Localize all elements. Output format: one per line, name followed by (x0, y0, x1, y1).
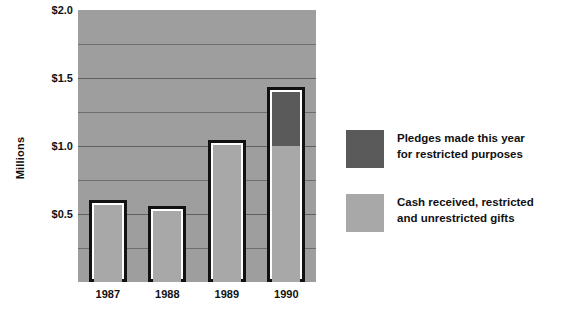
legend-label-line2: and unrestricted gifts (397, 211, 534, 227)
x-tick-label-1989: 1989 (215, 288, 239, 300)
bar-1989 (208, 140, 246, 282)
x-tick-label-1990: 1990 (274, 288, 298, 300)
legend-swatch-cash (346, 194, 384, 232)
gridline (78, 44, 316, 45)
y-tick-label: $1.0 (6, 140, 78, 152)
legend-item: Pledges made this yearfor restricted pur… (346, 130, 562, 168)
legend-label-line2: for restricted purposes (397, 147, 525, 163)
bar-segment-cash (94, 205, 122, 283)
x-tick-label-1988: 1988 (155, 288, 179, 300)
bar-segment-cash (153, 211, 181, 282)
gridline (78, 78, 316, 79)
y-tick-label: $2.0 (6, 4, 78, 16)
plot-area (78, 10, 316, 282)
bar-segment-cash (272, 146, 300, 282)
y-axis-ticks: $2.0$1.5$1.0$0.5 (0, 0, 78, 316)
x-axis-ticks: 1987198819891990 (78, 288, 316, 308)
bar-chart-figure: Millions $2.0$1.5$1.0$0.5 19871988198919… (0, 0, 568, 316)
legend-item: Cash received, restrictedand unrestricte… (346, 194, 562, 232)
bar-1990 (267, 87, 305, 282)
x-tick-label-1987: 1987 (96, 288, 120, 300)
y-tick-label: $0.5 (6, 208, 78, 220)
chart-legend: Pledges made this yearfor restricted pur… (346, 130, 562, 258)
bar-1987 (89, 200, 127, 283)
bar-segment-pledges (272, 92, 300, 146)
bar-segment-cash (213, 145, 241, 282)
legend-label-line1: Pledges made this year (397, 131, 525, 147)
y-tick-label: $1.5 (6, 72, 78, 84)
legend-swatch-pledge (346, 130, 384, 168)
legend-label: Cash received, restrictedand unrestricte… (397, 194, 534, 227)
legend-label-line1: Cash received, restricted (397, 195, 534, 211)
bar-1988 (148, 206, 186, 282)
legend-label: Pledges made this yearfor restricted pur… (397, 130, 525, 163)
